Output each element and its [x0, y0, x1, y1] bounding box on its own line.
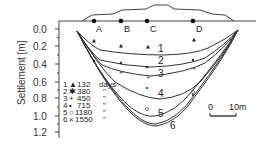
station-dot-a — [92, 19, 97, 24]
scale-start: 0 — [208, 102, 213, 112]
scale-end: 10m — [229, 102, 247, 112]
y-tick-label: 0.8 — [33, 93, 47, 104]
svg-text:days: days — [99, 80, 116, 89]
curve-label-2: 2 — [158, 55, 164, 66]
y-tick-label: 0.2 — [33, 41, 47, 52]
scale-bar: 0 10m — [208, 102, 247, 116]
svg-text:": " — [103, 115, 106, 124]
svg-text:▲: ▲ — [119, 42, 123, 48]
svg-text:1550: 1550 — [75, 115, 93, 124]
station-label-c: C — [150, 24, 157, 34]
svg-text:+: + — [192, 65, 196, 71]
y-tick-label: 0.0 — [33, 24, 47, 35]
station-dot-d — [191, 19, 196, 24]
y-tick-label: 0.6 — [33, 77, 47, 88]
station-label-d: D — [196, 24, 203, 34]
settlement-chart: A B C D 0.0 0.2 0.4 0.6 0.8 1.0 1.2 Sett… — [0, 0, 269, 148]
svg-text:6: 6 — [63, 115, 68, 124]
curve-label-6: 6 — [170, 120, 176, 131]
y-tick-label: 1.2 — [33, 127, 47, 138]
curve-label-3: 3 — [158, 68, 164, 79]
svg-text:▲: ▲ — [146, 43, 150, 49]
embankment-profile — [82, 5, 234, 21]
svg-text:+: + — [119, 69, 123, 75]
station-dot-b — [119, 19, 124, 24]
y-ticks — [55, 29, 59, 132]
station-label-b: B — [124, 24, 130, 34]
station-label-a: A — [96, 24, 102, 34]
station-dot-c — [145, 19, 150, 24]
y-axis-title: Settlement [m] — [16, 40, 27, 105]
svg-text:×: × — [69, 115, 74, 124]
legend: 1 ▲ 132 days 2 ✱ 380 " 3 + 450 " 4 • 715… — [63, 80, 116, 124]
svg-text:▲: ▲ — [192, 36, 196, 42]
y-tick-label: 0.4 — [33, 59, 47, 70]
curve-label-4: 4 — [158, 88, 164, 99]
svg-text:▲: ▲ — [92, 37, 96, 43]
svg-text:+: + — [146, 74, 150, 80]
curve-label-1: 1 — [158, 43, 164, 54]
y-tick-label: 1.0 — [33, 111, 47, 122]
curve-label-5: 5 — [158, 108, 164, 119]
markers: ▲ ▲ ▲ ▲ + + + — [92, 36, 196, 111]
